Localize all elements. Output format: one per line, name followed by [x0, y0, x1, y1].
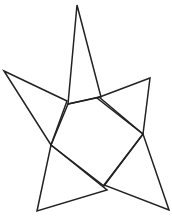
geometry-figure	[0, 0, 172, 217]
top-triangle	[68, 5, 101, 104]
bottom-right-triangle	[104, 134, 169, 210]
left-triangle	[4, 71, 67, 145]
center-pentagon	[51, 97, 143, 186]
right-triangle	[97, 78, 150, 134]
bottom-left-triangle	[37, 145, 107, 211]
